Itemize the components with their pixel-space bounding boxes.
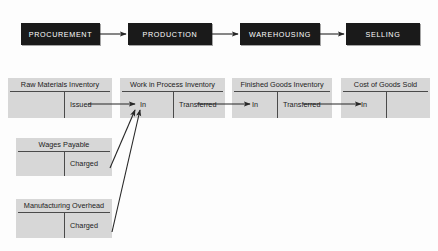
t-account-credit-cell: Transferred [278,91,337,118]
t-account-cost-of-goods-sold: Cost of Goods SoldIn [341,78,430,118]
process-box-label: WAREHOUSING [249,30,311,39]
t-account-wages-payable: Wages PayableCharged [16,138,112,176]
cost-flow-diagram: PROCUREMENTPRODUCTIONWAREHOUSINGSELLING … [0,0,438,251]
t-account-credit-cell: Issued [65,91,117,118]
t-account-credit-cell: Charged [65,151,117,176]
flow-arrows [88,104,361,232]
process-box-label: PRODUCTION [143,30,198,39]
t-account-credit-cell: Charged [65,212,117,238]
t-account-title: Raw Materials Inventory [8,78,112,91]
process-box-label: SELLING [366,30,401,39]
t-account-title: Work in Process Inventory [120,78,225,91]
t-account-manufacturing-overhead: Manufacturing OverheadCharged [16,199,112,238]
t-account-debit-cell [16,151,69,176]
t-account-finished-goods-inventory: Finished Goods InventoryInTransferred [232,78,332,118]
t-account-title: Manufacturing Overhead [16,199,112,212]
process-box-label: PROCUREMENT [29,30,92,39]
process-box-warehousing: WAREHOUSING [240,23,320,45]
process-box-selling: SELLING [346,23,420,45]
t-account-title: Finished Goods Inventory [232,78,332,91]
t-account-credit-cell: Transferred [174,91,230,118]
process-box-production: PRODUCTION [128,23,212,45]
t-account-credit-cell [387,91,435,118]
t-account-work-in-process-inventory: Work in Process InventoryInTransferred [120,78,225,118]
t-account-raw-materials-inventory: Raw Materials InventoryIssued [8,78,112,118]
process-box-procurement: PROCUREMENT [21,23,100,45]
t-account-title: Cost of Goods Sold [341,78,430,91]
t-account-debit-cell [8,91,69,118]
t-account-title: Wages Payable [16,138,112,151]
t-account-debit-cell [16,212,69,238]
